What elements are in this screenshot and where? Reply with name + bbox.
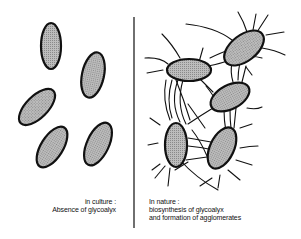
bacterium-cell	[167, 59, 211, 81]
nature-caption-title: In nature :	[149, 198, 241, 206]
culture-caption: in culture : Absence of glycoalyx	[52, 198, 116, 214]
bacterium-cell	[77, 50, 108, 100]
culture-caption-title: in culture :	[52, 198, 116, 206]
bacterium-cell	[41, 23, 61, 69]
bacterium-cell	[165, 123, 187, 167]
culture-caption-subtitle: Absence of glycoalyx	[52, 206, 116, 214]
bacterium-cell	[218, 24, 270, 73]
nature-caption-line2: and formation of agglomerates	[149, 214, 241, 222]
bacterium-cell	[78, 119, 117, 170]
nature-caption-line1: biosynthesis of glycoalyx	[149, 206, 241, 214]
bacterium-cell	[30, 122, 73, 173]
bacterium-cell	[13, 83, 61, 131]
bacterium-cell	[202, 123, 242, 173]
nature-caption: In nature : biosynthesis of glycoalyx an…	[149, 198, 241, 222]
culture-cells	[13, 23, 118, 172]
nature-cells	[165, 24, 270, 173]
